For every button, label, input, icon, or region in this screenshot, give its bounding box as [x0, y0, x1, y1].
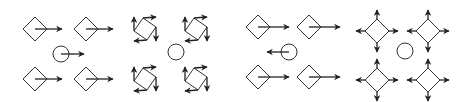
tilted-square-shape [134, 68, 156, 90]
arrow-icon [134, 40, 147, 41]
tilted-square-shape [185, 18, 207, 40]
diamond-shape [365, 19, 389, 43]
arrow-icon [194, 17, 207, 18]
diamond-shape [416, 68, 440, 92]
diagram-canvas [0, 0, 471, 102]
circle-shape [168, 44, 184, 60]
arrow-icon [134, 90, 147, 91]
panel-translation-circle-left [246, 15, 340, 89]
flow-field-diagram [0, 0, 471, 102]
arrow-icon [143, 17, 156, 18]
tilted-square-shape [185, 68, 207, 90]
panel-expansion [356, 10, 449, 101]
panel-translation-right [23, 17, 113, 91]
arrow-icon [143, 67, 156, 68]
arrow-icon [185, 40, 198, 41]
panel-rotation [134, 17, 207, 91]
diamond-shape [416, 19, 440, 43]
circle-shape [397, 43, 413, 59]
tilted-square-shape [134, 18, 156, 40]
arrow-icon [185, 90, 198, 91]
diamond-shape [365, 68, 389, 92]
arrow-icon [194, 67, 207, 68]
